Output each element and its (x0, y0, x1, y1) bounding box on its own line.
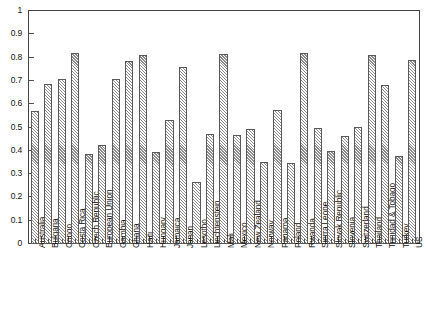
y-axis-tick-label: 0.9 (0, 29, 22, 38)
bar (139, 55, 147, 244)
x-axis-tick-mark (372, 239, 373, 243)
y-axis-tick-label: 0.1 (0, 216, 22, 225)
x-axis-category-label: US (415, 237, 423, 248)
bar (300, 53, 308, 244)
x-axis-tick-mark (250, 239, 251, 243)
bar (125, 61, 133, 244)
x-axis-tick-mark (291, 239, 292, 243)
y-axis-tick-label: 0.4 (0, 146, 22, 155)
x-axis-tick-mark (183, 239, 184, 243)
x-axis-tick-mark (197, 239, 198, 243)
y-axis-tick-label: 0.5 (0, 123, 22, 132)
x-axis-tick-mark (237, 239, 238, 243)
y-axis-tick-label: 0.8 (0, 53, 22, 62)
x-axis-tick-mark (412, 239, 413, 243)
x-axis-tick-mark (331, 239, 332, 243)
x-axis-tick-mark (399, 239, 400, 243)
x-axis-tick-mark (102, 239, 103, 243)
y-axis-tick-label: 0.6 (0, 99, 22, 108)
x-axis-tick-mark (75, 239, 76, 243)
bar (219, 54, 227, 244)
x-axis-tick-mark (358, 239, 359, 243)
x-axis-tick-mark (318, 239, 319, 243)
x-axis-tick-mark (277, 239, 278, 243)
y-axis-tick-label: 1 (0, 6, 22, 15)
x-axis-tick-mark (210, 239, 211, 243)
x-axis-tick-mark (345, 239, 346, 243)
bar-chart: 00.10.20.30.40.50.60.70.80.91AustraliaBu… (0, 0, 426, 324)
y-axis-tick-label: 0.2 (0, 192, 22, 201)
x-axis-tick-mark (35, 239, 36, 243)
bar (58, 79, 66, 244)
y-axis-tick-label: 0 (0, 239, 22, 248)
y-axis-tick-label: 0.3 (0, 169, 22, 178)
x-axis-tick-mark (224, 239, 225, 243)
bar (368, 55, 376, 244)
x-axis-tick-mark (385, 239, 386, 243)
y-axis-tick-label: 0.7 (0, 76, 22, 85)
x-axis-tick-mark (89, 239, 90, 243)
x-axis-tick-mark (156, 239, 157, 243)
x-axis-tick-mark (170, 239, 171, 243)
x-axis-tick-mark (143, 239, 144, 243)
x-axis-tick-mark (62, 239, 63, 243)
bar (408, 60, 416, 244)
x-axis-tick-mark (264, 239, 265, 243)
y-axis-tick-mark (29, 33, 34, 34)
x-axis-tick-mark (48, 239, 49, 243)
y-axis-tick-mark (29, 80, 34, 81)
x-axis-tick-mark (129, 239, 130, 243)
x-axis-tick-mark (116, 239, 117, 243)
bar (179, 67, 187, 244)
y-axis-tick-mark (29, 103, 34, 104)
y-axis-tick-mark (29, 57, 34, 58)
x-axis-tick-mark (304, 239, 305, 243)
